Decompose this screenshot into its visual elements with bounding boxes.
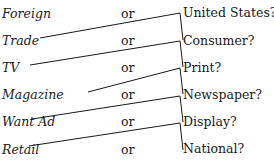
connector-line	[30, 41, 183, 67]
right-option: National?	[183, 142, 244, 156]
right-option: Newspaper?	[183, 88, 262, 102]
connector-line	[88, 68, 183, 94]
or-label: or	[121, 7, 135, 21]
left-option: Magazine	[2, 88, 64, 102]
right-option: Print?	[183, 61, 221, 75]
right-option: Consumer?	[183, 34, 255, 48]
left-option: TV	[2, 61, 19, 75]
left-option: Want Ad	[2, 115, 55, 129]
right-option: United States?	[183, 6, 274, 20]
or-label: or	[121, 61, 135, 75]
connector-line	[40, 13, 183, 40]
left-option: Foreign	[2, 7, 51, 21]
left-option: Retail	[2, 143, 39, 157]
right-option: Display?	[183, 115, 237, 129]
or-label: or	[121, 34, 135, 48]
or-label: or	[121, 88, 135, 102]
left-option: Trade	[2, 34, 39, 48]
or-label: or	[121, 143, 135, 157]
or-label: or	[121, 115, 135, 129]
